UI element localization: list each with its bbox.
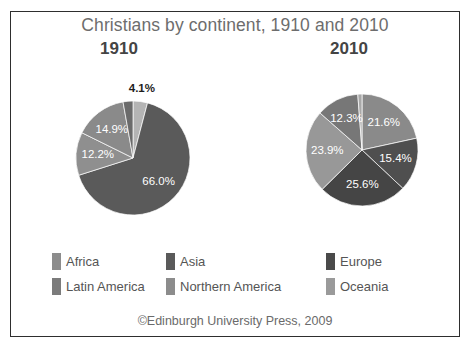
legend-item-label: Europe [340, 255, 382, 268]
legend-swatch-icon [52, 253, 61, 270]
panel-heading-2010: 2010 [289, 39, 409, 59]
legend-item-northern-america[interactable]: Northern America [166, 275, 296, 298]
legend-column-1: AsiaNorthern America [166, 250, 296, 300]
legend-item-label: Oceania [340, 280, 388, 293]
pie-slice-label: 4.1% [129, 82, 155, 94]
pie-svg: 21.6%15.4%25.6%23.9%12.3% [277, 75, 447, 215]
legend-item-label: Africa [66, 255, 99, 268]
legend-swatch-icon [52, 278, 61, 295]
page-title: Christians by continent, 1910 and 2010 [11, 15, 459, 36]
pie-slice-label: 21.6% [367, 116, 400, 128]
legend-item-europe[interactable]: Europe [326, 250, 456, 273]
legend: AfricaLatin America AsiaNorthern America… [44, 250, 434, 302]
pie-slice-label: 15.4% [379, 152, 412, 164]
pie-svg: 4.1%66.0%12.2%14.9% [49, 75, 219, 215]
pie-chart-2010: 21.6%15.4%25.6%23.9%12.3% [277, 75, 447, 215]
legend-item-label: Latin America [66, 280, 145, 293]
legend-item-asia[interactable]: Asia [166, 250, 296, 273]
pie-slice-label: 23.9% [311, 144, 344, 156]
pie-slice-label: 25.6% [346, 178, 379, 190]
pie-slice-label: 66.0% [142, 175, 175, 187]
pie-slice-label: 14.9% [95, 123, 128, 135]
legend-swatch-icon [326, 278, 335, 295]
legend-item-label: Northern America [180, 280, 281, 293]
legend-swatch-icon [326, 253, 335, 270]
legend-item-latin-america[interactable]: Latin America [52, 275, 182, 298]
legend-column-0: AfricaLatin America [52, 250, 182, 300]
copyright-credit: ©Edinburgh University Press, 2009 [11, 314, 459, 328]
legend-column-2: EuropeOceania [326, 250, 456, 300]
legend-item-africa[interactable]: Africa [52, 250, 182, 273]
legend-item-label: Asia [180, 255, 205, 268]
legend-swatch-icon [166, 253, 175, 270]
pie-slice-label: 12.2% [81, 148, 114, 160]
panel-heading-1910: 1910 [59, 39, 179, 59]
legend-item-oceania[interactable]: Oceania [326, 275, 456, 298]
pie-chart-1910: 4.1%66.0%12.2%14.9% [49, 75, 219, 215]
legend-swatch-icon [166, 278, 175, 295]
figure-frame: Christians by continent, 1910 and 2010 1… [10, 11, 460, 337]
pie-slice-label: 12.3% [330, 112, 363, 124]
